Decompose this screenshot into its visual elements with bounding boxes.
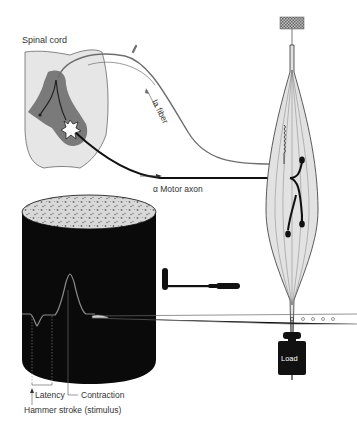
motor-axon [76,133,290,178]
spinal-cord-label: Spinal cord [22,36,67,45]
contraction-label: Contraction [81,391,124,400]
stretch-reflex-diagram [0,0,357,431]
hammer-stroke-label: Hammer stroke (stimulus) [24,406,121,415]
motor-axon-label: α Motor axon [153,185,203,194]
load-weight [278,321,306,375]
anchor-block [280,17,304,29]
latency-label: Latency [35,391,65,400]
load-label: Load [281,355,298,363]
dorsal-root-ganglion [133,46,136,52]
kymograph-drum [22,195,156,395]
reflex-hammer [162,268,240,290]
stimulus-arrow [30,388,34,393]
drum-top [22,195,156,229]
